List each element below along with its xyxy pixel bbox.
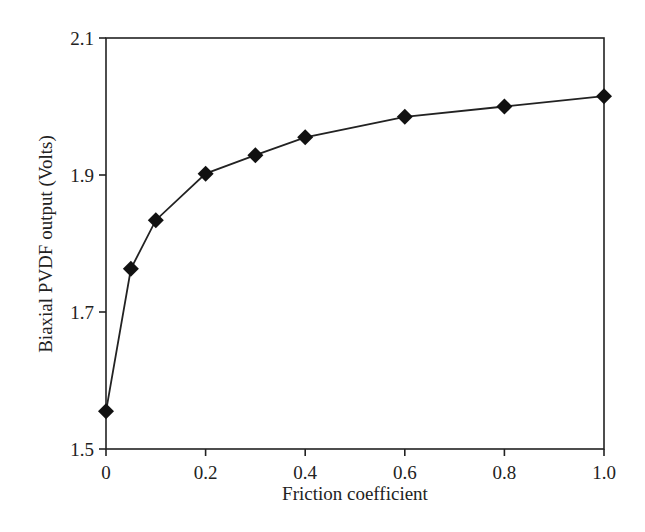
x-tick-label: 0.2 (194, 462, 218, 483)
x-axis-ticks: 00.20.40.60.81.0 (101, 449, 616, 483)
x-tick-label: 1.0 (592, 462, 616, 483)
y-tick-label: 1.7 (70, 302, 94, 323)
diamond-marker (596, 88, 612, 104)
plot-frame (106, 38, 604, 449)
diamond-marker (297, 129, 313, 145)
y-tick-label: 1.9 (70, 165, 94, 186)
x-axis-label: Friction coefficient (282, 483, 429, 504)
x-tick-label: 0.4 (293, 462, 317, 483)
y-tick-label: 1.5 (70, 439, 94, 460)
data-markers (98, 88, 612, 419)
y-axis-ticks: 1.51.71.92.1 (70, 28, 106, 460)
y-axis-label: Biaxial PVDF output (Volts) (35, 135, 57, 353)
data-line (106, 96, 604, 411)
x-tick-label: 0 (101, 462, 111, 483)
diamond-marker (397, 109, 413, 125)
x-tick-label: 0.8 (493, 462, 517, 483)
diamond-marker (98, 403, 114, 419)
diamond-marker (123, 261, 139, 277)
diamond-marker (496, 99, 512, 115)
x-tick-label: 0.6 (393, 462, 417, 483)
line-chart: 00.20.40.60.81.0 1.51.71.92.1 Friction c… (0, 0, 645, 532)
y-tick-label: 2.1 (70, 28, 94, 49)
diamond-marker (247, 147, 263, 163)
